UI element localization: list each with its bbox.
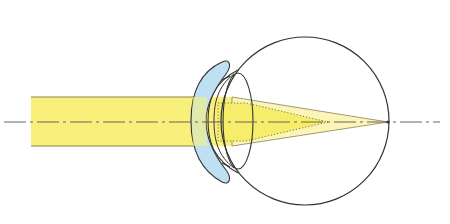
incoming-light-beam [31, 97, 203, 146]
retina-focal-point [386, 120, 389, 123]
beam-through-contact-lens [192, 97, 207, 146]
eye-optics-diagram [0, 0, 450, 224]
